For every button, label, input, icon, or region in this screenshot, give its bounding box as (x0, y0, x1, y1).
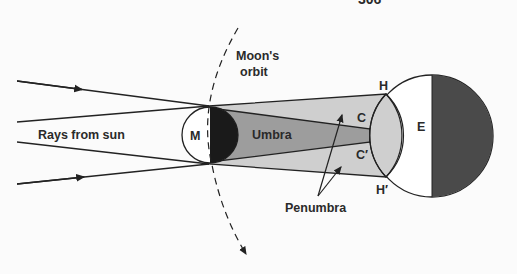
h-bottom-label: H′ (376, 183, 388, 197)
eclipse-diagram: 306 (0, 0, 517, 274)
diagram-canvas: 306 (0, 0, 517, 274)
umbra-label: Umbra (252, 128, 293, 142)
moon-label: M (190, 129, 200, 143)
earth (370, 75, 493, 197)
header-fragment: 306 (358, 0, 382, 7)
c-bottom-label: C′ (356, 148, 368, 162)
orbit-label-line1: Moon's (236, 49, 279, 63)
h-top-label: H (379, 79, 388, 93)
earth-night-side (432, 75, 493, 197)
earth-label: E (417, 120, 425, 134)
orbit-label-line2: orbit (240, 65, 269, 79)
c-top-label: C (357, 111, 366, 125)
penumbra-label: Penumbra (285, 201, 347, 215)
rays-label: Rays from sun (38, 128, 125, 142)
